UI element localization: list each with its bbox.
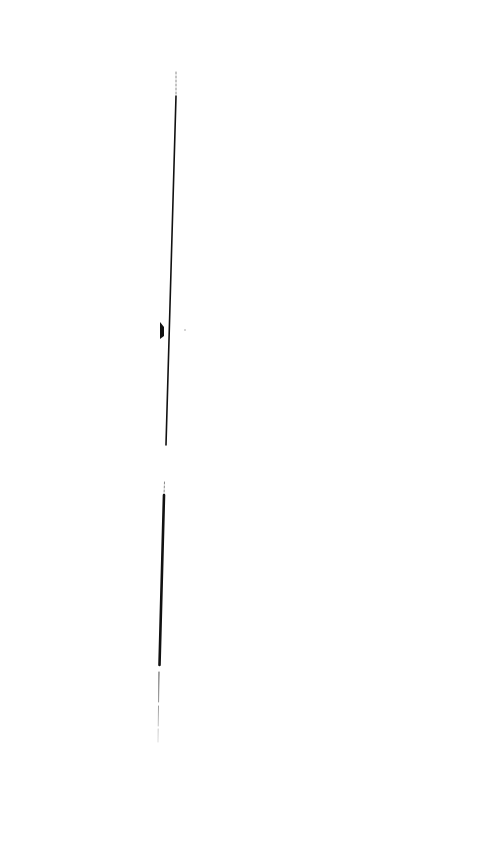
- scanned-page: [0, 0, 478, 843]
- bottom-thin-line: [158, 672, 159, 742]
- upper-line: [166, 96, 176, 445]
- lower-faint-tip: [164, 482, 165, 495]
- wedge-mark: [160, 322, 164, 339]
- line-drawing: [0, 0, 478, 843]
- speck: [184, 329, 185, 330]
- stroke-group: [158, 72, 186, 742]
- lower-thick-line: [160, 495, 165, 665]
